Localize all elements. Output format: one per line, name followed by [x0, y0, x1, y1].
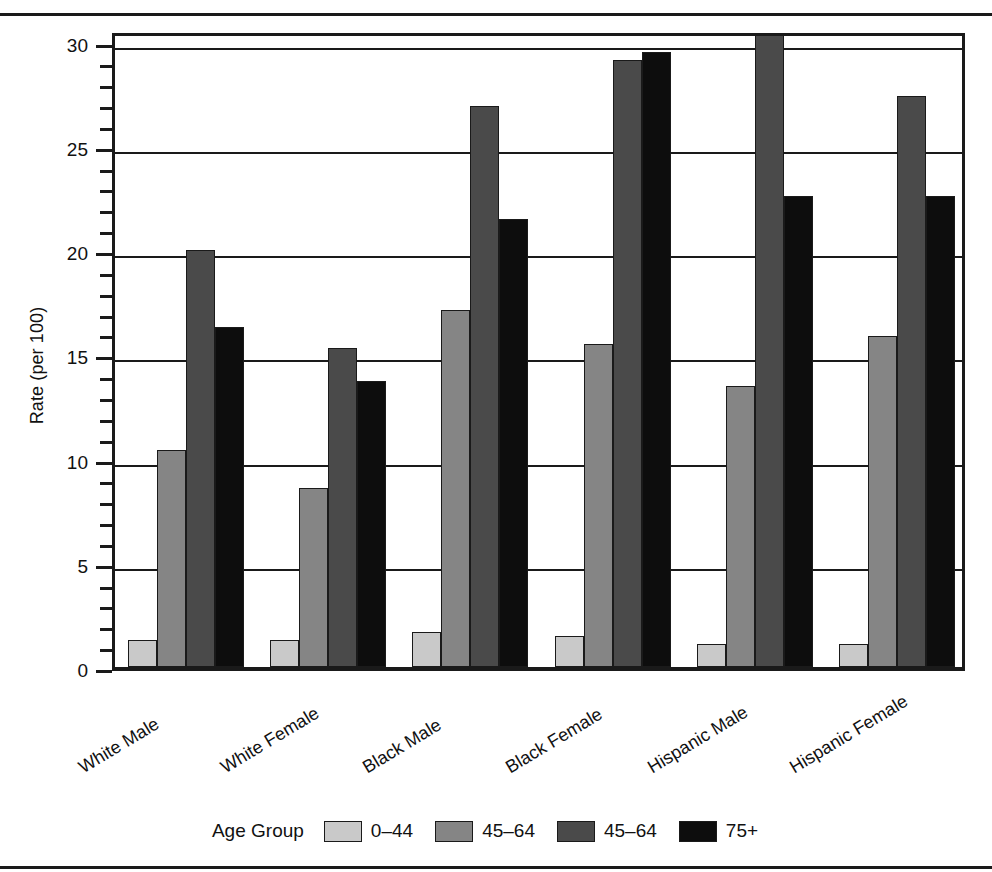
y-tick-major [96, 566, 112, 569]
y-tick-minor [100, 232, 112, 235]
y-tick-major [96, 149, 112, 152]
y-tick-minor [100, 190, 112, 193]
y-tick-major [96, 670, 112, 673]
legend-item[interactable]: 75+ [679, 820, 758, 842]
y-tick-minor [100, 482, 112, 485]
y-tick-label: 10 [18, 453, 88, 472]
y-tick-minor [100, 441, 112, 444]
plot-area [112, 33, 965, 671]
y-tick-label: 0 [18, 661, 88, 680]
legend-item[interactable]: 0–44 [324, 820, 413, 842]
gridline [115, 48, 962, 50]
y-tick-minor [100, 420, 112, 423]
x-tick-label: Black Female [502, 704, 606, 778]
chart-legend: Age Group 0–4445–6445–6475+ [0, 810, 992, 852]
bar [642, 52, 671, 667]
y-tick-minor [100, 524, 112, 527]
y-tick-label: 25 [18, 140, 88, 159]
legend-label: 45–64 [482, 820, 535, 842]
legend-swatch [435, 821, 473, 842]
x-tick-label: White Female [217, 703, 323, 778]
bar [441, 310, 470, 667]
bar [697, 644, 726, 667]
gridline [115, 256, 962, 258]
y-tick-label: 5 [18, 557, 88, 576]
bar [926, 196, 955, 667]
y-tick-minor [100, 336, 112, 339]
bar [357, 381, 386, 667]
legend-label: 0–44 [371, 820, 413, 842]
y-tick-major [96, 45, 112, 48]
y-tick-minor [100, 503, 112, 506]
bar [157, 450, 186, 667]
y-tick-minor [100, 378, 112, 381]
x-tick-label: White Male [75, 714, 163, 778]
bar [186, 250, 215, 667]
bar [412, 632, 441, 667]
y-tick-minor [100, 587, 112, 590]
y-tick-major [96, 253, 112, 256]
legend-swatch [679, 821, 717, 842]
legend-label: 45–64 [604, 820, 657, 842]
legend-item[interactable]: 45–64 [557, 820, 657, 842]
bar [555, 636, 584, 667]
bar [839, 644, 868, 667]
y-tick-minor [100, 65, 112, 68]
legend-title: Age Group [212, 820, 304, 842]
x-tick-label: Hispanic Female [786, 691, 912, 778]
y-tick-label: 15 [18, 348, 88, 367]
y-tick-label: 30 [18, 36, 88, 55]
y-tick-minor [100, 170, 112, 173]
y-tick-minor [100, 545, 112, 548]
y-tick-label: 20 [18, 244, 88, 263]
y-tick-major [96, 357, 112, 360]
legend-swatch [324, 821, 362, 842]
legend-label: 75+ [726, 820, 758, 842]
bar [613, 60, 642, 667]
y-tick-minor [100, 316, 112, 319]
y-tick-minor [100, 607, 112, 610]
y-tick-minor [100, 399, 112, 402]
bar [755, 33, 784, 667]
bar [215, 327, 244, 667]
bar [499, 219, 528, 667]
y-tick-minor [100, 295, 112, 298]
x-tick-label: Black Male [359, 715, 445, 778]
bar [726, 386, 755, 667]
bar [584, 344, 613, 667]
bar [784, 196, 813, 667]
y-tick-minor [100, 274, 112, 277]
bar [470, 106, 499, 667]
bar [128, 640, 157, 667]
y-tick-minor [100, 128, 112, 131]
y-tick-major [96, 462, 112, 465]
x-tick-label: Hispanic Male [644, 702, 752, 778]
bar [868, 336, 897, 668]
bar [328, 348, 357, 667]
gridline [115, 152, 962, 154]
bar [270, 640, 299, 667]
y-tick-minor [100, 649, 112, 652]
bar [299, 488, 328, 667]
legend-items: 0–4445–6445–6475+ [324, 820, 780, 842]
bar [897, 96, 926, 667]
y-tick-minor [100, 211, 112, 214]
y-tick-minor [100, 107, 112, 110]
legend-swatch [557, 821, 595, 842]
y-tick-minor [100, 86, 112, 89]
bar-chart-figure: Rate (per 100) 051015202530 White MaleWh… [0, 0, 992, 872]
y-tick-minor [100, 628, 112, 631]
legend-item[interactable]: 45–64 [435, 820, 535, 842]
